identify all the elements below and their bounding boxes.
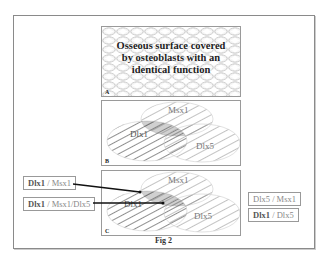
pointer-line-1	[73, 184, 140, 192]
figure-caption: Fig 2	[0, 236, 327, 245]
pointer-lines	[0, 0, 327, 260]
